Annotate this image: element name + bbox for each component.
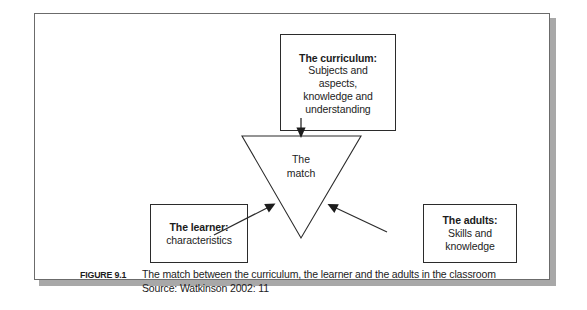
adults-box: The adults: Skills and knowledge <box>423 204 517 263</box>
caption-title-text: The match between the curriculum, the le… <box>142 268 496 280</box>
learner-box-line-1: characteristics <box>166 234 232 247</box>
match-label: The match <box>261 152 341 180</box>
match-label-line-1: The <box>261 152 341 166</box>
figure-number-label: FIGURE 9.1 <box>80 269 138 280</box>
curriculum-box-line-4: understanding <box>305 103 370 116</box>
learner-box: The learner: characteristics <box>150 204 248 263</box>
learner-box-title: The learner: <box>170 221 229 234</box>
curriculum-box-line-3: knowledge and <box>303 90 372 103</box>
adults-box-line-1: Skills and <box>448 227 492 240</box>
curriculum-box-title: The curriculum: <box>299 52 377 65</box>
caption-source-text: Source: Watkinson 2002: 11 <box>142 282 560 294</box>
figure-screenshot: The curriculum: Subjects and aspects, kn… <box>0 0 587 310</box>
figure-caption: FIGURE 9.1 The match between the curricu… <box>80 268 560 294</box>
curriculum-box-line-1: Subjects and <box>308 64 368 77</box>
adults-box-line-2: knowledge <box>445 240 494 253</box>
curriculum-box-line-2: aspects, <box>319 77 357 90</box>
match-label-line-2: match <box>261 166 341 180</box>
caption-title-row: FIGURE 9.1 The match between the curricu… <box>80 268 560 280</box>
curriculum-box: The curriculum: Subjects and aspects, kn… <box>280 34 396 131</box>
figure-panel: The curriculum: Subjects and aspects, kn… <box>34 13 550 280</box>
adults-box-title: The adults: <box>443 214 498 227</box>
